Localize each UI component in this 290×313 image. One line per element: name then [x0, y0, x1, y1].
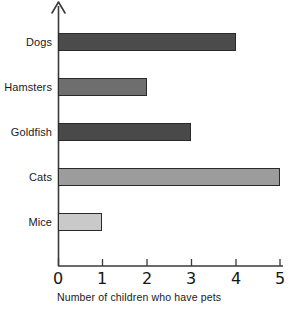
- category-label-goldfish: Goldfish: [0, 127, 52, 138]
- x-axis-title: Number of children who have pets: [57, 291, 221, 303]
- up-arrow-icon: [52, 2, 65, 13]
- x-axis-ticks: [59, 258, 281, 266]
- x-tick-label-3: 3: [179, 270, 203, 288]
- bar-hamsters: [58, 78, 147, 96]
- x-tick-label-2: 2: [135, 270, 159, 288]
- category-label-mice: Mice: [0, 217, 52, 228]
- x-tick-label-1: 1: [90, 270, 114, 288]
- bar-dogs: [58, 33, 236, 51]
- bar-chart: Dogs Hamsters Goldfish Cats Mice 0 1 2 3…: [0, 0, 290, 313]
- bar-goldfish: [58, 123, 191, 141]
- x-tick-label-0: 0: [46, 270, 70, 288]
- category-label-cats: Cats: [0, 172, 52, 183]
- bar-cats: [58, 168, 280, 186]
- x-tick-label-5: 5: [268, 270, 290, 288]
- category-label-hamsters: Hamsters: [0, 82, 52, 93]
- x-tick-label-4: 4: [224, 270, 248, 288]
- category-label-dogs: Dogs: [0, 37, 52, 48]
- bar-mice: [58, 213, 102, 231]
